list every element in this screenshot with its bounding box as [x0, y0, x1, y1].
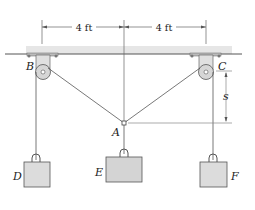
vertical-dimension-s [128, 71, 232, 123]
pulley-system-diagram: 4 ft 4 ft B C A s [0, 0, 255, 210]
horizontal-dimension [42, 20, 206, 123]
right-span-label: 4 ft [156, 22, 173, 33]
left-span-label: 4 ft [76, 22, 93, 33]
label-b: B [25, 60, 34, 73]
label-e: E [94, 166, 103, 179]
weight-d [24, 154, 50, 187]
cables [36, 68, 213, 160]
pulley-c [190, 53, 221, 80]
label-s: s [223, 90, 229, 103]
label-f: F [230, 170, 239, 183]
ring-a [122, 121, 126, 125]
label-d: D [12, 170, 22, 183]
weight-f [200, 154, 227, 187]
label-a: A [111, 126, 120, 139]
